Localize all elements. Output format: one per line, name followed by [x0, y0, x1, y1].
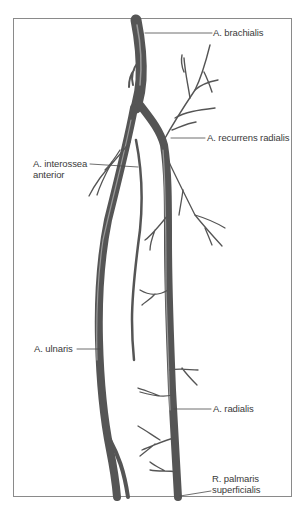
leader-lines	[77, 33, 212, 496]
label-recurrens-radialis: A. recurrens radialis	[207, 133, 289, 144]
label-palmaris-line2: superficialis	[212, 485, 260, 496]
label-interossea-anterior: A. interossea anterior	[33, 159, 87, 180]
label-interossea-line1: A. interossea	[33, 159, 87, 170]
label-radialis: A. radialis	[213, 404, 254, 415]
label-interossea-line2: anterior	[33, 170, 87, 181]
label-brachialis: A. brachialis	[213, 28, 263, 39]
label-ulnaris: A. ulnaris	[34, 344, 73, 355]
recurrent-branches	[164, 45, 218, 140]
label-palmaris-superficialis: R. palmaris superficialis	[212, 474, 260, 495]
label-palmaris-line1: R. palmaris	[212, 474, 260, 485]
interossea-anterior-artery	[132, 140, 142, 360]
artery-illustration	[0, 0, 306, 513]
